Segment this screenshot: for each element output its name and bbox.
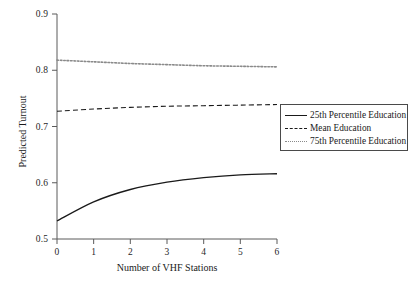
legend-item-25th-percentile-education: 25th Percentile Education	[285, 108, 404, 121]
y-axis-title: Predicted Turnout	[17, 62, 28, 202]
legend-label-75th-percentile-education: 75th Percentile Education	[310, 135, 406, 147]
x-axis-title: Number of VHF Stations	[57, 262, 277, 273]
legend-label-25th-percentile-education: 25th Percentile Education	[310, 109, 406, 121]
line-mean-education	[57, 105, 277, 112]
chart-legend: 25th Percentile Education Mean Education…	[280, 104, 408, 151]
x-tick-label-2: 2	[128, 247, 133, 257]
y-tick-label-0: 0.9	[8, 9, 48, 19]
y-tick-label-1: 0.8	[8, 65, 48, 75]
x-tick-label-1: 1	[91, 247, 96, 257]
x-tick-label-6: 6	[275, 247, 280, 257]
x-tick-marks	[57, 239, 277, 244]
line-25th-percentile-education	[57, 174, 277, 221]
y-tick-label-3: 0.6	[8, 178, 48, 188]
x-tick-label-5: 5	[238, 247, 243, 257]
y-tick-marks	[52, 14, 57, 239]
legend-label-mean-education: Mean Education	[310, 122, 371, 134]
legend-item-mean-education: Mean Education	[285, 121, 404, 134]
chart-figure: 0.9 0.8 0.7 0.6 0.5 0 1 2 3 4 5 6 Number…	[0, 0, 410, 283]
legend-dashed-line-icon	[285, 123, 307, 133]
legend-dotted-line-icon	[285, 136, 307, 146]
x-tick-label-3: 3	[165, 247, 170, 257]
x-tick-label-0: 0	[55, 247, 60, 257]
line-75th-percentile-education	[57, 60, 277, 67]
x-tick-label-4: 4	[201, 247, 206, 257]
legend-item-75th-percentile-education: 75th Percentile Education	[285, 134, 404, 147]
y-tick-label-2: 0.7	[8, 122, 48, 132]
y-tick-label-4: 0.5	[8, 234, 48, 244]
legend-solid-line-icon	[285, 110, 307, 120]
